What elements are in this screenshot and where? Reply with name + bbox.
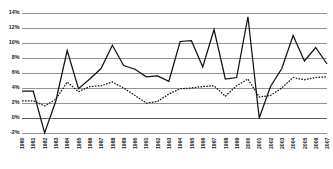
x-tick-label: 1985 (76, 137, 82, 149)
y-tick-label: 14% (9, 9, 20, 15)
x-tick-label: 1981 (30, 137, 36, 149)
x-tick-label: 2006 (313, 137, 319, 149)
y-axis-tick-labels: 14%12%10%8%6%4%2%0%-2% (9, 9, 20, 135)
x-tick-label: 1984 (64, 137, 70, 149)
x-axis-tick-labels: 1980198119821983198419851986198719881989… (19, 137, 330, 149)
plot-area: 14%12%10%8%6%4%2%0%-2% 19801981198219831… (0, 0, 333, 169)
x-tick-label: 1987 (98, 137, 104, 149)
x-tick-label: 1980 (19, 137, 25, 149)
x-tick-label: 1999 (234, 137, 240, 149)
y-tick-label: 6% (12, 69, 20, 75)
y-tick-label: 2% (12, 99, 20, 105)
x-tick-label: 2004 (290, 137, 296, 149)
x-tick-label: 2003 (279, 137, 285, 149)
x-tick-label: 1986 (87, 137, 93, 149)
x-tick-label: 1992 (155, 137, 161, 149)
gridlines-group (22, 13, 327, 133)
x-tick-label: 1989 (121, 137, 127, 149)
y-tick-label: 4% (12, 84, 20, 90)
x-tick-label: 1983 (53, 137, 59, 149)
x-tick-label: 1993 (166, 137, 172, 149)
x-tick-label: 1997 (211, 137, 217, 149)
series-layer (22, 17, 327, 133)
chart-container: 14%12%10%8%6%4%2%0%-2% 19801981198219831… (0, 0, 333, 169)
x-tick-label: 1988 (110, 137, 116, 149)
line-chart-svg: 14%12%10%8%6%4%2%0%-2% 19801981198219831… (0, 0, 333, 169)
x-tick-label: 2002 (268, 137, 274, 149)
x-tick-label: 2001 (256, 137, 262, 149)
x-tick-label: 2005 (302, 137, 308, 149)
y-tick-label: 0% (12, 114, 20, 120)
y-tick-label: -2% (10, 129, 20, 135)
x-tick-label: 2007 (324, 137, 330, 149)
y-tick-label: 12% (9, 24, 20, 30)
x-tick-label: 1990 (132, 137, 138, 149)
x-tick-label: 1991 (143, 137, 149, 149)
y-tick-label: 8% (12, 54, 20, 60)
x-tick-label: 1982 (42, 137, 48, 149)
x-tick-label: 1996 (200, 137, 206, 149)
x-tick-label: 1994 (177, 137, 183, 149)
x-tick-label: 1998 (223, 137, 229, 149)
x-tick-label: 2000 (245, 137, 251, 149)
y-tick-label: 10% (9, 39, 20, 45)
x-tick-label: 1995 (189, 137, 195, 149)
data-series-dotted (22, 77, 327, 106)
data-series-solid (22, 17, 327, 133)
